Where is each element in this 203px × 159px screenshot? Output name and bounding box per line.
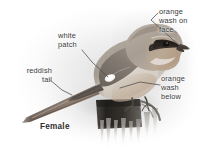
leader-line-reddish-tail [49, 79, 72, 95]
annotation-orange-wash-on-face: orange wash on face [159, 7, 203, 35]
annotation-reddish-tail: reddish tail [3, 66, 52, 84]
bird-illustration-plate: orange wash on face white patch reddish … [0, 0, 203, 159]
annotation-orange-wash-below: orange wash below [161, 74, 203, 102]
sex-caption: Female [40, 122, 70, 131]
eye [163, 41, 169, 46]
eye-highlight [166, 42, 167, 43]
annotation-white-patch: white patch [58, 31, 98, 49]
